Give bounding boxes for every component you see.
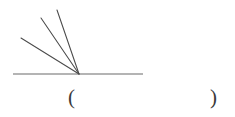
ray-1-shallow (21, 38, 79, 74)
figure-container: ( ) (0, 0, 235, 117)
answer-close-paren: ) (210, 84, 217, 110)
ray-2-middle (41, 18, 79, 74)
answer-blank-input[interactable] (80, 86, 208, 108)
answer-row: ( ) (0, 84, 235, 110)
answer-open-paren: ( (68, 84, 75, 110)
ray-3-steep (57, 10, 79, 74)
